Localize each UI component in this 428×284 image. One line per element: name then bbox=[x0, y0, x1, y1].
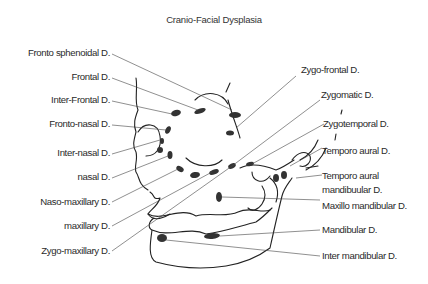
skull-illustration bbox=[0, 0, 428, 284]
label-inter-nasal: Inter-nasal D. bbox=[57, 147, 110, 158]
label-zygo-maxillary: Zygo-maxillary D. bbox=[41, 245, 110, 256]
label-fronto-sphenoidal: Fronto sphenoidal D. bbox=[28, 47, 110, 58]
lesion-markers bbox=[157, 107, 287, 242]
skull-outline bbox=[134, 78, 148, 190]
label-temporo-aural: Temporo aural D. bbox=[322, 145, 390, 156]
label-fronto-nasal: Fronto-nasal D. bbox=[49, 118, 110, 129]
label-nasal: nasal D. bbox=[78, 171, 110, 182]
label-zygomatic: Zygomatic D. bbox=[321, 89, 373, 100]
label-temporo-aural-mand-2: mandibuular D. bbox=[322, 184, 382, 195]
label-maxillo-mandibular: Maxillo mandibular D. bbox=[322, 200, 407, 211]
label-mandibular: Mandibular D. bbox=[322, 224, 377, 235]
leader-lines bbox=[112, 54, 324, 256]
label-zygotemporal: Zygotemporal D. bbox=[323, 118, 389, 129]
label-zygo-frontal: Zygo-frontal D. bbox=[301, 64, 359, 75]
label-frontal: Frontal D. bbox=[71, 71, 110, 82]
label-temporo-aural-mand-1: Temporo aural bbox=[322, 170, 379, 181]
label-inter-mandibular: Inter mandibular D. bbox=[322, 250, 397, 261]
label-inter-frontal: Inter-Frontal D. bbox=[51, 94, 110, 105]
label-naso-maxillary: Naso-maxillary D. bbox=[40, 196, 110, 207]
label-maxillary: maxillary D. bbox=[64, 220, 110, 231]
